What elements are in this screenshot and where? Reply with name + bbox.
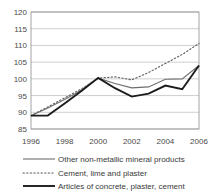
legend-label: Cement, lime and plaster (58, 169, 147, 178)
series-line (31, 65, 199, 115)
legend-label: Other non-metallic mineral products (58, 155, 185, 164)
y-tick-label: 120 (14, 8, 28, 17)
y-tick-label: 100 (14, 75, 28, 84)
line-chart: 120115110105100959085 199619982000200220… (0, 0, 210, 194)
x-axis-tick-labels: 199619982000200220042006 (22, 137, 208, 146)
y-tick-label: 85 (18, 125, 27, 134)
series-line (31, 65, 199, 115)
y-tick-label: 90 (18, 108, 27, 117)
x-tick-label: 2006 (190, 137, 208, 146)
x-tick-label: 2002 (123, 137, 141, 146)
legend-label: Articles of concrete, plaster, cement (58, 182, 186, 191)
plot-area-frame (31, 12, 199, 129)
y-tick-label: 110 (14, 41, 27, 50)
chart-legend: Other non-metallic mineral productsCemen… (23, 155, 186, 191)
x-tick-label: 2000 (89, 137, 107, 146)
y-tick-label: 105 (14, 58, 28, 67)
x-tick-label: 1996 (22, 137, 40, 146)
y-tick-label: 115 (14, 25, 27, 34)
gridlines (31, 12, 199, 129)
x-tick-label: 2004 (157, 137, 175, 146)
y-tick-label: 95 (18, 92, 27, 101)
y-axis-tick-labels: 120115110105100959085 (14, 8, 28, 134)
chart-canvas: 120115110105100959085 199619982000200220… (0, 0, 210, 194)
series-layer (31, 43, 199, 115)
x-tick-label: 1998 (56, 137, 74, 146)
